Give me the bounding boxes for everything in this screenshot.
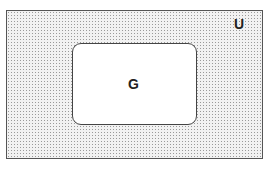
set-g-label: G [128, 77, 139, 91]
universe-label: U [234, 17, 244, 31]
